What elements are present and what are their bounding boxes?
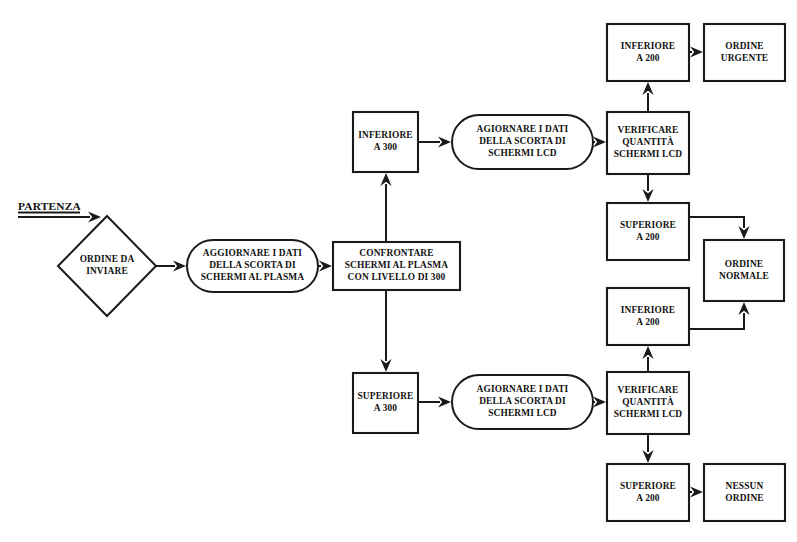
edge-verificare-top-to-superiore200 [642, 174, 653, 202]
node-label-line: A 200 [636, 493, 660, 503]
edge-superiore300-to-lcd-bottom [418, 396, 451, 407]
node-label-line: A 300 [374, 142, 398, 152]
node-label-line: SUPERIORE [357, 391, 413, 401]
node-label-line: ORDINE [725, 493, 763, 503]
labels-layer: PARTENZA [18, 200, 82, 213]
node-label-line: AGIORNARE I DATI [477, 124, 569, 134]
node-label-line: ORDINE [725, 41, 763, 51]
node-label-line: QUANTITÀ [622, 136, 674, 147]
node-label-line: INFERIORE [621, 41, 675, 51]
node-label-line: VERIFICARE [618, 125, 679, 135]
node-label-line: SUPERIORE [620, 481, 676, 491]
edge-verificare-top-to-inferiore200 [642, 82, 653, 112]
edge-inferiore200-to-urgente [689, 46, 703, 57]
node-aggiornare-plasma[interactable]: AGGIORNARE I DATIDELLA SCORTA DISCHERMI … [187, 240, 318, 292]
node-label-line: CONFRONTARE [359, 248, 433, 258]
node-label-line: INVIARE [86, 266, 128, 276]
edge-superiore200b-to-nessun [689, 486, 703, 497]
edge-lcd-top-to-verificare-top [593, 136, 606, 147]
node-label-line: A 200 [636, 53, 660, 63]
node-ordine-da-inviare[interactable]: ORDINE DAINVIARE [58, 216, 156, 316]
node-label-line: VERIFICARE [618, 385, 679, 395]
node-verificare-lcd-bottom[interactable]: VERIFICAREQUANTITÀSCHERMI LCD [607, 372, 689, 434]
node-label-line: INFERIORE [621, 305, 675, 315]
node-label-line: DELLA SCORTA DI [479, 136, 566, 146]
edge-diamond-to-aggiornare [156, 260, 186, 271]
node-label-line: CON LIVELLO DI 300 [348, 272, 446, 282]
node-label-line: A 200 [636, 317, 660, 327]
node-label-line: SCHERMI LCD [614, 409, 683, 419]
edge-aggiornare-to-confrontare [318, 260, 332, 271]
node-label-line: A 300 [374, 403, 398, 413]
flowchart-svg: ORDINE DAINVIAREAGGIORNARE I DATIDELLA S… [0, 0, 797, 542]
node-inferiore-200-top[interactable]: INFERIOREA 200 [607, 24, 689, 81]
node-label-line: ORDINE DA [80, 254, 135, 264]
flowchart-canvas: ORDINE DAINVIAREAGGIORNARE I DATIDELLA S… [0, 0, 797, 542]
node-label-line: SUPERIORE [620, 220, 676, 230]
node-superiore-200-bottom[interactable]: SUPERIOREA 200 [607, 464, 689, 521]
node-label-line: URGENTE [721, 53, 768, 63]
edge-confrontare-to-inferiore300 [380, 173, 391, 242]
node-inferiore-200-bottom[interactable]: INFERIOREA 200 [607, 288, 689, 345]
node-confrontare-plasma[interactable]: CONFRONTARESCHERMI AL PLASMACON LIVELLO … [333, 242, 460, 290]
node-label-line: SCHERMI AL PLASMA [345, 260, 449, 270]
nodes-layer: ORDINE DAINVIAREAGGIORNARE I DATIDELLA S… [58, 24, 785, 521]
node-agiornare-lcd-top[interactable]: AGIORNARE I DATIDELLA SCORTA DISCHERMI L… [452, 115, 593, 169]
edge-lcd-bottom-to-verificare-bottom [593, 396, 606, 407]
node-label-line: INFERIORE [358, 130, 412, 140]
edge-confrontare-to-superiore300 [380, 290, 391, 372]
node-label-line: AGIORNARE I DATI [477, 384, 569, 394]
node-label-line: ORDINE [725, 259, 763, 269]
node-label-line: SCHERMI LCD [488, 148, 557, 158]
node-nessun-ordine[interactable]: NESSUNORDINE [704, 464, 785, 521]
edge-inferiore300-to-lcd-top [418, 136, 451, 147]
node-verificare-lcd-top[interactable]: VERIFICAREQUANTITÀSCHERMI LCD [607, 112, 689, 174]
node-label-line: AGGIORNARE I DATI [203, 248, 302, 258]
node-label-line: NESSUN [726, 481, 764, 491]
start-label: PARTENZA [18, 200, 82, 212]
edge-verificare-bottom-to-superiore200b [642, 434, 653, 463]
node-label-line: DELLA SCORTA DI [209, 260, 296, 270]
node-agiornare-lcd-bottom[interactable]: AGIORNARE I DATIDELLA SCORTA DISCHERMI L… [452, 375, 593, 429]
node-label-line: SCHERMI LCD [488, 408, 557, 418]
node-label-line: NORMALE [719, 271, 769, 281]
node-ordine-urgente[interactable]: ORDINEURGENTE [704, 24, 785, 81]
node-superiore-300[interactable]: SUPERIOREA 300 [353, 373, 418, 433]
edge-superiore200-to-normale [689, 217, 750, 239]
node-ordine-normale[interactable]: ORDINENORMALE [704, 240, 784, 301]
node-label-line: DELLA SCORTA DI [479, 396, 566, 406]
node-label-line: SCHERMI AL PLASMA [201, 272, 305, 282]
node-label-line: A 200 [636, 232, 660, 242]
edge-verificare-bottom-to-inferiore200b [642, 346, 653, 372]
node-inferiore-300[interactable]: INFERIOREA 300 [353, 112, 418, 172]
node-label-line: QUANTITÀ [622, 396, 674, 407]
node-superiore-200-top[interactable]: SUPERIOREA 200 [607, 203, 689, 260]
edge-inferiore200b-to-normale [689, 302, 750, 329]
node-label-line: SCHERMI LCD [614, 149, 683, 159]
